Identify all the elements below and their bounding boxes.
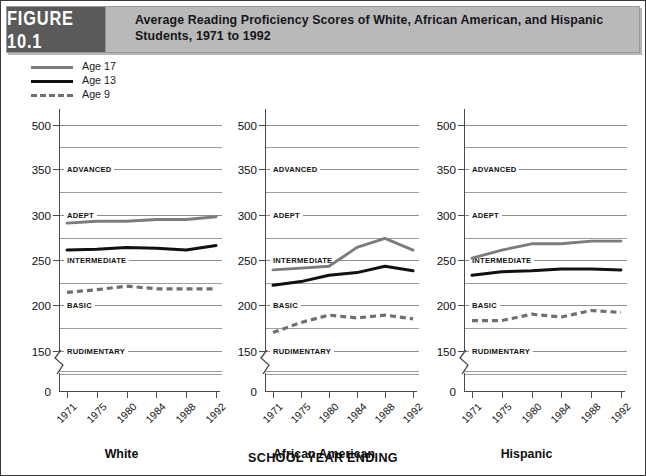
series-line-age-9 bbox=[67, 286, 216, 292]
x-axis-tick-label: 1980 bbox=[313, 401, 341, 429]
figure-header-band: FIGURE 10.1 Average Reading Proficiency … bbox=[6, 6, 640, 53]
gridline bbox=[464, 374, 627, 375]
gridline bbox=[59, 371, 222, 372]
x-axis-tick-label: 1992 bbox=[397, 401, 425, 429]
x-axis-tick-label: 1992 bbox=[200, 401, 228, 429]
series-line-age-17 bbox=[472, 241, 621, 258]
y-axis-tick-label: 300 bbox=[437, 209, 456, 222]
y-axis-zero-label: 0 bbox=[450, 385, 456, 398]
x-axis-tick-label: 1988 bbox=[575, 401, 603, 429]
y-axis-tick-label: 300 bbox=[32, 209, 51, 222]
chart-panel-hispanic: 1502002503003505000RUDIMENTARYBASICINTER… bbox=[424, 109, 629, 409]
y-axis-tick-label: 500 bbox=[437, 119, 456, 132]
x-axis-tick bbox=[591, 391, 592, 398]
series-lines bbox=[464, 109, 627, 371]
legend-swatch-icon bbox=[31, 59, 73, 73]
x-axis-tick-label: 1975 bbox=[81, 401, 109, 429]
y-axis-tick-label: 250 bbox=[238, 254, 257, 267]
y-axis-tick-label: 250 bbox=[437, 254, 456, 267]
legend-item: Age 9 bbox=[31, 87, 116, 101]
gridline bbox=[464, 371, 627, 372]
y-axis-tick-label: 500 bbox=[32, 119, 51, 132]
series-lines bbox=[59, 109, 222, 371]
plot-area: 1502002503003505000RUDIMENTARYBASICINTER… bbox=[59, 109, 222, 371]
series-line-age-17 bbox=[273, 238, 413, 270]
gridline bbox=[265, 374, 419, 375]
figure-container: FIGURE 10.1 Average Reading Proficiency … bbox=[0, 0, 646, 476]
x-axis-tick bbox=[532, 391, 533, 398]
y-axis-tick-label: 150 bbox=[32, 345, 51, 358]
legend-item: Age 17 bbox=[31, 59, 116, 73]
legend-item-label: Age 9 bbox=[82, 88, 110, 100]
y-axis-tick-label: 200 bbox=[32, 299, 51, 312]
x-axis-tick-label: 1980 bbox=[111, 401, 139, 429]
chart-legend: Age 17Age 13Age 9 bbox=[31, 59, 116, 101]
x-axis-tick bbox=[216, 391, 217, 398]
x-axis-title: SCHOOL YEAR ENDING bbox=[1, 451, 645, 465]
plot-area: 1502002503003505000RUDIMENTARYBASICINTER… bbox=[464, 109, 627, 371]
x-axis-tick bbox=[67, 391, 68, 398]
figure-title: Average Reading Proficiency Scores of Wh… bbox=[135, 12, 633, 45]
x-axis-tick-label: 1980 bbox=[516, 401, 544, 429]
gridline bbox=[59, 374, 222, 375]
series-line-age-9 bbox=[472, 311, 621, 321]
x-axis-tick bbox=[621, 391, 622, 398]
series-lines bbox=[265, 109, 419, 371]
x-axis-tick-label: 1971 bbox=[456, 401, 484, 429]
legend-item-label: Age 17 bbox=[82, 60, 116, 72]
y-axis-tick-label: 250 bbox=[32, 254, 51, 267]
series-line-age-13 bbox=[67, 246, 216, 251]
series-line-age-13 bbox=[472, 269, 621, 275]
y-axis-tick-label: 200 bbox=[238, 299, 257, 312]
x-axis-tick-label: 1971 bbox=[51, 401, 79, 429]
y-axis-tick-label: 350 bbox=[32, 163, 51, 176]
x-axis-tick bbox=[156, 391, 157, 398]
chart-panel-african-american: 1502002503003505000RUDIMENTARYBASICINTER… bbox=[227, 109, 421, 409]
y-axis-tick-label: 200 bbox=[437, 299, 456, 312]
y-axis-tick-label: 300 bbox=[238, 209, 257, 222]
y-axis-line-lower bbox=[464, 373, 465, 391]
y-axis-tick-label: 350 bbox=[238, 163, 257, 176]
plot-area: 1502002503003505000RUDIMENTARYBASICINTER… bbox=[265, 109, 419, 371]
y-axis-line-lower bbox=[265, 373, 266, 391]
x-axis-tick-label: 1992 bbox=[605, 401, 633, 429]
legend-item-label: Age 13 bbox=[82, 74, 116, 86]
legend-swatch-icon bbox=[31, 73, 73, 87]
x-axis-line bbox=[464, 391, 625, 392]
x-axis-tick bbox=[472, 391, 473, 398]
legend-swatch-icon bbox=[31, 87, 73, 101]
x-axis-tick-label: 1988 bbox=[369, 401, 397, 429]
x-axis-tick-label: 1984 bbox=[141, 401, 169, 429]
x-axis-tick bbox=[127, 391, 128, 398]
y-axis-tick-label: 350 bbox=[437, 163, 456, 176]
x-axis-tick bbox=[186, 391, 187, 398]
figure-number-tag: FIGURE 10.1 bbox=[7, 7, 105, 52]
x-axis-tick-label: 1975 bbox=[486, 401, 514, 429]
x-axis-tick bbox=[329, 391, 330, 398]
series-line-age-17 bbox=[67, 217, 216, 223]
gridline bbox=[265, 371, 419, 372]
legend-item: Age 13 bbox=[31, 73, 116, 87]
x-axis-tick-label: 1988 bbox=[170, 401, 198, 429]
x-axis-tick-label: 1975 bbox=[285, 401, 313, 429]
x-axis-line bbox=[59, 391, 220, 392]
x-axis-tick bbox=[502, 391, 503, 398]
y-axis-zero-label: 0 bbox=[251, 385, 257, 398]
chart-panel-white: 1502002503003505000RUDIMENTARYBASICINTER… bbox=[19, 109, 224, 409]
x-axis-tick-label: 1984 bbox=[341, 401, 369, 429]
x-axis-line bbox=[265, 391, 417, 392]
y-axis-zero-label: 0 bbox=[45, 385, 51, 398]
x-axis-tick bbox=[561, 391, 562, 398]
x-axis-tick bbox=[97, 391, 98, 398]
y-axis-line-lower bbox=[59, 373, 60, 391]
x-axis-tick bbox=[385, 391, 386, 398]
x-axis-tick-label: 1984 bbox=[546, 401, 574, 429]
chart-panels: 1502002503003505000RUDIMENTARYBASICINTER… bbox=[1, 109, 646, 409]
x-axis-tick bbox=[413, 391, 414, 398]
x-axis-tick bbox=[301, 391, 302, 398]
x-axis-tick-label: 1971 bbox=[257, 401, 285, 429]
y-axis-tick-label: 500 bbox=[238, 119, 257, 132]
x-axis-tick bbox=[357, 391, 358, 398]
x-axis-tick bbox=[273, 391, 274, 398]
series-line-age-9 bbox=[273, 315, 413, 333]
